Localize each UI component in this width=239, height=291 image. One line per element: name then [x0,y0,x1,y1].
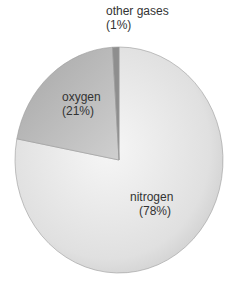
label-oxygen: oxygen (21%) [62,90,101,118]
label-nitrogen-pct: (78%) [130,204,173,218]
label-nitrogen-name: nitrogen [130,190,173,204]
label-oxygen-pct: (21%) [62,104,101,118]
label-oxygen-name: oxygen [62,90,101,104]
pie-chart [0,0,239,291]
label-other-gases-pct: (1%) [106,18,169,32]
label-nitrogen: nitrogen (78%) [130,190,173,218]
label-other-gases-name: other gases [106,4,169,18]
label-other-gases: other gases (1%) [106,4,169,32]
